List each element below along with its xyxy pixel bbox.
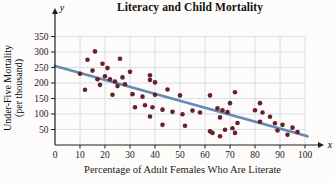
data-point (170, 110, 175, 115)
data-point (105, 66, 110, 71)
y-tick-label: 300 (34, 47, 49, 57)
data-point (198, 110, 203, 115)
y-tick-label: 200 (34, 78, 49, 88)
y-axis-title-line2: (per thousand) (13, 59, 25, 117)
data-point (223, 128, 228, 133)
x-tick-label: 10 (75, 150, 85, 160)
data-point (273, 121, 278, 126)
data-point (143, 103, 148, 108)
data-point (225, 110, 230, 115)
y-tick-label: 100 (34, 109, 49, 119)
data-point (85, 57, 90, 62)
data-point (295, 130, 300, 135)
data-point (128, 70, 133, 75)
tick-labels: 0102030405060708090100501001502002503003… (34, 32, 312, 161)
chart-title: Literacy and Child Mortality (55, 1, 325, 13)
data-point (133, 105, 138, 110)
data-point (220, 108, 225, 113)
x-tick-label: 30 (125, 150, 135, 160)
x-tick-label: 90 (275, 150, 285, 160)
y-tick-label: 250 (34, 63, 49, 73)
data-point (275, 128, 280, 133)
x-tick-label: 70 (225, 150, 235, 160)
data-point (130, 92, 135, 97)
trend-line (55, 66, 308, 136)
y-tick-label: 150 (34, 94, 49, 104)
y-axis-title: Under-Five Mortality (per thousand) (2, 45, 25, 131)
x-tick-label: 50 (175, 150, 185, 160)
data-point (153, 80, 158, 85)
x-tick-label: 40 (150, 150, 160, 160)
data-point (93, 49, 98, 54)
x-axis-title: Percentage of Adult Females Who Are Lite… (40, 164, 325, 175)
data-point (148, 114, 153, 119)
data-point (108, 77, 113, 82)
data-point (90, 68, 95, 73)
data-point (100, 61, 105, 66)
regression-line (55, 66, 308, 136)
x-tick-label: 100 (298, 150, 313, 160)
data-point (113, 79, 118, 84)
data-point (260, 110, 265, 115)
data-point (183, 123, 188, 128)
data-point (235, 121, 240, 126)
data-point (180, 112, 185, 117)
data-point (98, 83, 103, 88)
data-point (160, 107, 165, 112)
gridlines (55, 37, 305, 146)
y-tick-label: 50 (39, 125, 49, 135)
scatter-plot: 0102030405060708090100501001502002503003… (0, 0, 335, 183)
x-axis-arrow (318, 142, 324, 148)
data-point (290, 125, 295, 130)
data-point (208, 93, 213, 98)
data-point (148, 78, 153, 83)
data-point (110, 92, 115, 97)
data-point (190, 108, 195, 113)
data-point (78, 71, 83, 76)
data-point (233, 131, 238, 136)
data-point (83, 88, 88, 93)
tick-marks (51, 37, 305, 149)
data-point (210, 131, 215, 136)
data-point (215, 106, 220, 111)
y-axis-title-line1: Under-Five Mortality (2, 45, 13, 131)
data-point (140, 94, 145, 99)
y-tick-label: 350 (34, 32, 49, 42)
x-tick-label: 20 (100, 150, 110, 160)
data-point (165, 87, 170, 92)
data-point (218, 115, 223, 120)
data-point (103, 74, 108, 79)
data-point (120, 75, 125, 80)
data-point (268, 114, 273, 119)
data-point (218, 134, 223, 139)
data-point (280, 123, 285, 128)
data-point (285, 132, 290, 137)
data-point (150, 105, 155, 110)
data-point (153, 92, 158, 97)
data-point (95, 77, 100, 82)
literacy-mortality-figure: Literacy and Child Mortality 01020304050… (0, 0, 335, 183)
data-point (118, 57, 123, 62)
x-tick-label: 60 (200, 150, 210, 160)
data-point (178, 93, 183, 98)
data-point (258, 101, 263, 106)
data-point (230, 126, 235, 131)
data-point (148, 73, 153, 78)
x-tick-label: 0 (53, 150, 58, 160)
x-axis-var-label: x (327, 139, 333, 150)
data-point (253, 108, 258, 113)
data-point (233, 90, 238, 95)
data-point (228, 101, 233, 106)
data-point (123, 82, 128, 87)
data-point (115, 84, 120, 89)
data-point (258, 119, 263, 124)
data-point (160, 123, 165, 128)
x-tick-label: 80 (250, 150, 260, 160)
